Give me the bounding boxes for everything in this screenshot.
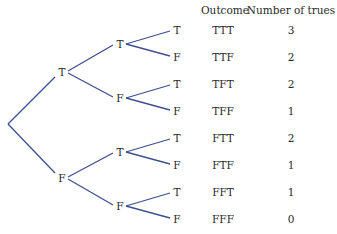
outcome-cell: TTT xyxy=(212,24,233,36)
node-level2: F xyxy=(116,92,123,104)
count-cell: 1 xyxy=(288,186,295,198)
node-level2: T xyxy=(116,146,123,158)
leaf-node: T xyxy=(173,186,180,198)
leaf-node: F xyxy=(173,105,180,117)
outcome-cell: FFF xyxy=(212,213,234,225)
outcome-cell: TFT xyxy=(212,78,233,90)
leaf-node: T xyxy=(173,132,180,144)
number-of-trues-header: Number of trues xyxy=(247,4,335,16)
leaf-node: F xyxy=(173,159,180,171)
count-cell: 1 xyxy=(288,159,295,171)
node-level1-false: F xyxy=(58,172,65,184)
node-level2: T xyxy=(116,38,123,50)
leaf-node: F xyxy=(173,51,180,63)
node-level2: F xyxy=(116,200,123,212)
outcome-cell: FFT xyxy=(212,186,234,198)
node-level1-true: T xyxy=(58,66,65,78)
leaf-node: T xyxy=(173,24,180,36)
count-cell: 2 xyxy=(288,51,295,63)
outcome-cell: TTF xyxy=(212,51,234,63)
tree-branches xyxy=(0,0,337,234)
count-cell: 0 xyxy=(288,213,295,225)
count-cell: 2 xyxy=(288,78,295,90)
leaf-node: T xyxy=(173,78,180,90)
outcome-header: Outcome xyxy=(201,4,249,16)
count-cell: 3 xyxy=(288,24,295,36)
outcome-cell: FTF xyxy=(212,159,234,171)
count-cell: 1 xyxy=(288,105,295,117)
outcome-cell: FTT xyxy=(212,132,234,144)
leaf-node: F xyxy=(173,213,180,225)
count-cell: 2 xyxy=(288,132,295,144)
outcome-cell: TFF xyxy=(212,105,234,117)
